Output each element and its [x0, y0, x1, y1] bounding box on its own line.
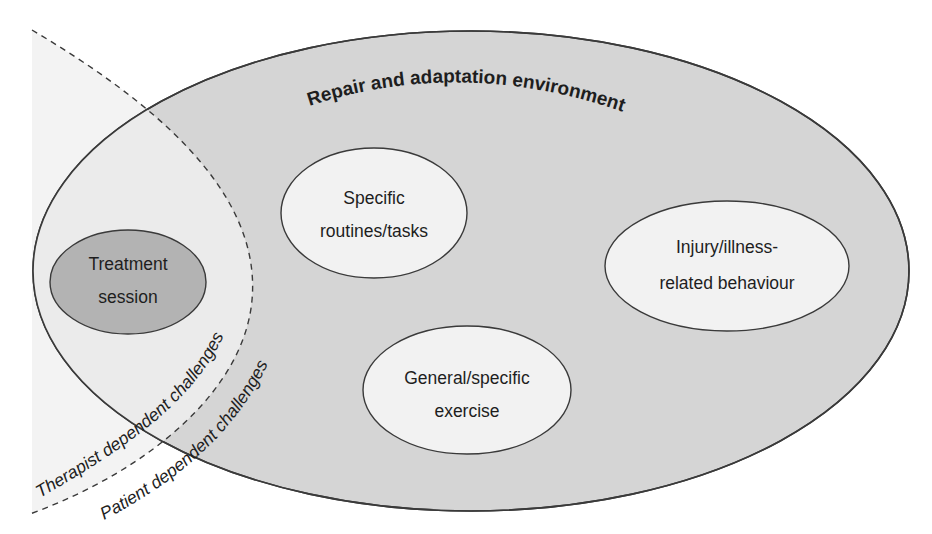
svg-text:related behaviour: related behaviour [659, 273, 794, 293]
svg-text:Treatment: Treatment [88, 254, 167, 274]
node-injury-behaviour: Injury/illness- related behaviour [605, 201, 849, 331]
node-treatment-session: Treatment session [50, 230, 206, 334]
svg-text:exercise: exercise [434, 401, 499, 421]
svg-text:Injury/illness-: Injury/illness- [676, 237, 778, 257]
node-specific-routines: Specific routines/tasks [281, 148, 467, 278]
adaptation-environment-diagram: Repair and adaptation environment Treatm… [0, 0, 932, 534]
svg-text:Specific: Specific [343, 188, 405, 208]
svg-text:routines/tasks: routines/tasks [320, 221, 428, 241]
svg-text:session: session [98, 287, 157, 307]
svg-text:General/specific: General/specific [404, 368, 530, 388]
node-general-exercise: General/specific exercise [363, 326, 571, 454]
